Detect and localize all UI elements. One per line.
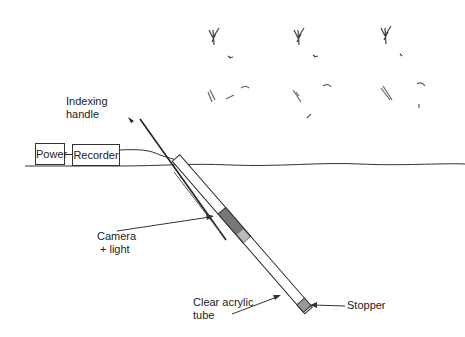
plant-2-icon <box>293 28 331 118</box>
indexing-handle-rod <box>140 119 226 240</box>
plant-3-icon <box>381 26 425 108</box>
camera-pointer-line <box>117 217 210 231</box>
stopper-label: Stopper <box>347 299 386 312</box>
power-box: Power <box>35 143 65 165</box>
tube-arrow-icon <box>273 295 281 300</box>
indexing-handle-label: Indexing handle <box>66 95 108 121</box>
plant-1-icon <box>208 28 249 102</box>
handle-arrow-icon <box>128 117 134 123</box>
acrylic-tube-label: Clear acrylic tube <box>193 296 254 322</box>
diagram-canvas <box>0 0 465 337</box>
stopper-pointer-line <box>313 305 345 306</box>
power-recorder-connector <box>65 154 72 155</box>
camera-light-label: Camera + light <box>97 230 136 256</box>
recorder-box: Recorder <box>72 144 120 166</box>
